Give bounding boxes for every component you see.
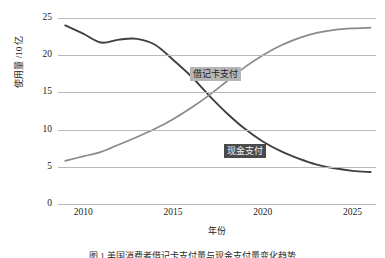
y-axis-tick-label: 5 [26,162,52,172]
gridline [58,92,376,93]
y-axis-title: 使用量 /10 亿 [12,2,25,122]
x-axis-tick-label: 2020 [253,208,272,218]
y-axis-tick-label: 10 [26,125,52,135]
gridline [58,55,376,56]
y-axis-tick-label: 25 [26,13,52,23]
series-label-cash: 现金支付 [224,144,266,158]
series-line-debit-card [65,28,370,161]
plot-area [58,18,376,204]
y-axis-tick-label: 20 [26,50,52,60]
series-line-cash [65,25,370,172]
figure-caption: 图 1 美国消费者借记卡支付量与现金支付量变化趋势 [0,249,385,258]
gridline [58,167,376,168]
gridline [58,130,376,131]
x-axis-tick-labels: 2010201520202025 [58,208,376,222]
gridline [58,18,376,19]
series-label-debit-card: 借记卡支付 [190,67,241,81]
x-axis-title: 年份 [58,224,376,237]
x-axis-tick-label: 2025 [343,208,362,218]
y-axis-tick-label: 0 [26,199,52,209]
series-lines [58,18,376,204]
chart-figure: 使用量 /10 亿 2520151050 2010201520202025 年份… [0,0,385,258]
x-axis-tick-label: 2015 [164,208,183,218]
gridline [58,204,376,205]
y-axis-tick-label: 15 [26,87,52,97]
y-axis-tick-labels: 2520151050 [24,0,52,258]
x-axis-tick-label: 2010 [74,208,93,218]
